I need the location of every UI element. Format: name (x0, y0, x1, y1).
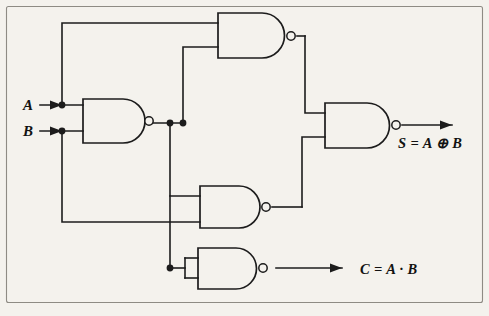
carry-output-arrowhead (330, 264, 342, 273)
junction-g5-tie (167, 265, 174, 272)
junction-g2-branch-2 (180, 120, 187, 127)
wire-g1-to-g4-upper (305, 36, 325, 113)
sum-nand-gate[interactable] (325, 103, 400, 148)
middle-nand-gate[interactable] (200, 186, 270, 228)
input-nand-gate[interactable] (83, 99, 153, 143)
logic-circuit-diagram: A B S = A ⊕ B C = A · B (0, 0, 489, 316)
diagram-frame (7, 7, 483, 303)
junction-b-tap (59, 128, 66, 135)
wire-layer (40, 23, 452, 278)
top-nand-bubble (287, 32, 295, 40)
carry-nand-bubble (259, 264, 267, 272)
wire-g3-to-g4-lower (302, 137, 325, 207)
wire-g2-to-g3-upper (170, 123, 200, 196)
input-label-a: A (22, 97, 33, 113)
output-label-sum: S = A ⊕ B (398, 135, 462, 151)
middle-nand-bubble (262, 203, 270, 211)
sum-nand-bubble (392, 121, 400, 129)
output-label-carry: C = A · B (360, 261, 418, 277)
carry-nand-body (198, 248, 257, 289)
top-nand-gate[interactable] (218, 13, 295, 58)
sum-nand-body (325, 103, 390, 148)
junction-layer (59, 102, 187, 272)
junction-a-tap (59, 102, 66, 109)
wire-g2-to-g1-lower (183, 47, 218, 123)
wire-a-feedback-top (62, 23, 218, 105)
middle-nand-body (200, 186, 260, 228)
top-nand-body (218, 13, 285, 58)
input-nand-bubble (145, 117, 153, 125)
wire-b-feedback-bottom (62, 131, 200, 222)
junction-g2-branch-1 (167, 120, 174, 127)
input-nand-body (83, 99, 145, 143)
diagram-canvas: A B S = A ⊕ B C = A · B (0, 0, 489, 316)
input-label-b: B (22, 123, 33, 139)
carry-inverter-nand-gate[interactable] (198, 248, 267, 289)
sum-output-arrowhead (440, 121, 452, 130)
